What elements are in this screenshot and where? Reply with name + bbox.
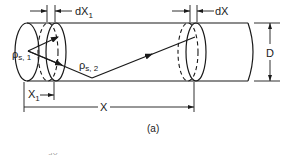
slice-dx1-solid-face <box>46 23 66 81</box>
cylinder-diagram: dX1 dX D X1 X ρs, 1 ρs, 2 (a) dX <box>0 0 283 155</box>
cylinder-left-end <box>15 23 39 81</box>
ray-reflected-arrow <box>92 54 152 78</box>
panel-label: (a) <box>147 123 159 134</box>
dim-x: X <box>24 82 194 113</box>
cropped-dx-label: dX <box>48 151 58 155</box>
ray-to-dx1 <box>28 37 58 51</box>
x-label: X <box>100 101 108 113</box>
dim-x1: X1 <box>24 82 54 112</box>
dx-label: dX <box>215 5 229 17</box>
dim-dx: dX <box>172 5 229 22</box>
dim-diameter: D <box>254 23 280 81</box>
slice-dx-solid-face <box>186 23 206 81</box>
slice-dx1 <box>38 23 66 81</box>
radiation-rays <box>28 37 195 78</box>
slice-dx-dashed-face <box>178 23 198 81</box>
cylinder-right-end <box>248 23 253 81</box>
cylinder-body <box>15 23 253 81</box>
x1-label: X1 <box>28 88 40 103</box>
ray-reflected-leg <box>150 37 195 55</box>
ray-s2-arrow <box>28 51 62 65</box>
slice-dx <box>178 23 206 81</box>
slice-dx1-dashed-face <box>38 23 58 81</box>
rho-s2-label: ρs, 2 <box>79 59 99 73</box>
dx1-label: dX1 <box>75 5 93 20</box>
dim-dx1: dX1 <box>30 5 93 22</box>
diameter-label: D <box>266 47 274 59</box>
